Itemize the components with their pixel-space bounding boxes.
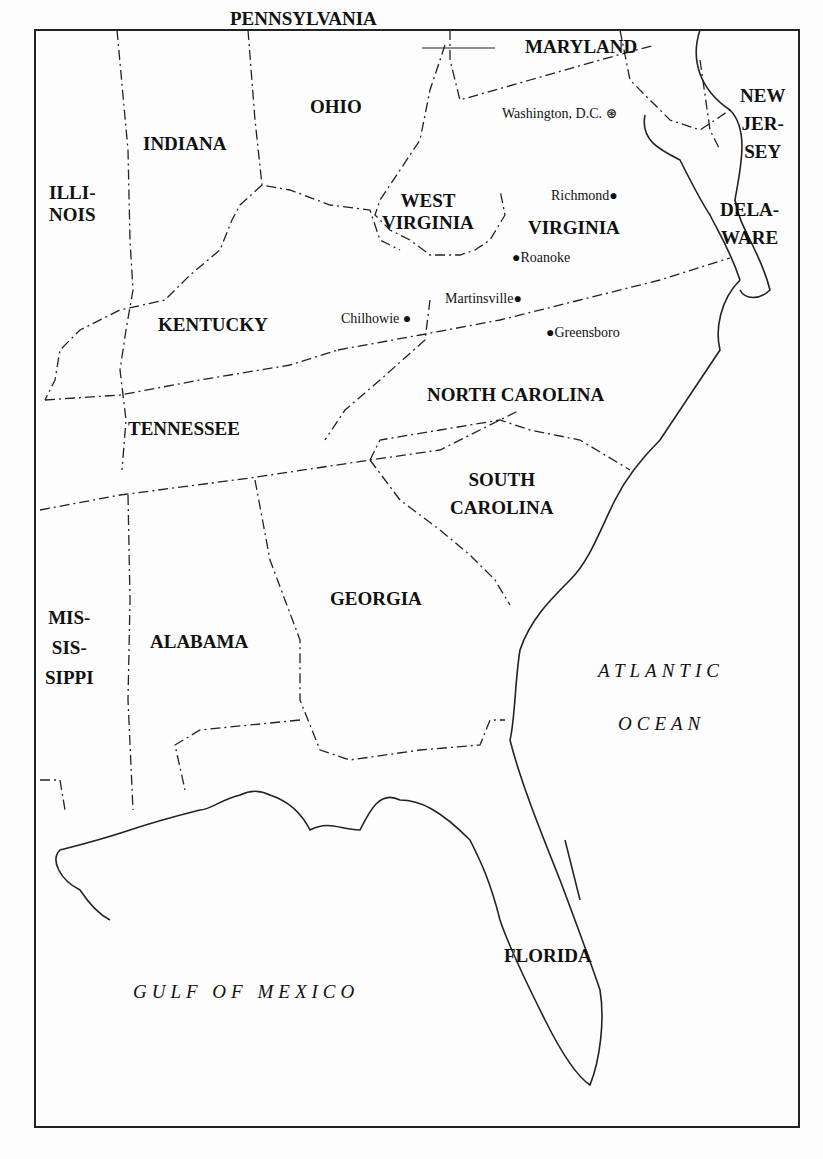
city-washington: Washington, D.C. ⊛: [502, 105, 617, 122]
label-ocean: OCEAN: [618, 713, 705, 735]
label-south-carolina: SOUTHCAROLINA: [450, 466, 553, 522]
label-pennsylvania: PENNSYLVANIA: [230, 8, 377, 30]
label-ohio: OHIO: [310, 96, 362, 118]
label-mississippi: MIS-SIS-SIPPI: [45, 603, 94, 693]
label-new-jersey: NEWJER-SEY: [740, 82, 785, 166]
label-georgia: GEORGIA: [330, 588, 422, 610]
map-lines: [0, 0, 823, 1159]
label-north-carolina: NORTH CAROLINA: [427, 384, 604, 406]
label-tennessee: TENNESSEE: [128, 418, 240, 440]
label-indiana: INDIANA: [143, 133, 226, 155]
label-illinois: ILLI-NOIS: [49, 182, 95, 226]
label-maryland: MARYLAND: [525, 36, 637, 58]
city-greensboro: ●Greensboro: [546, 325, 620, 341]
label-kentucky: KENTUCKY: [158, 314, 268, 336]
label-delaware: DELA-WARE: [720, 196, 779, 252]
label-west-virginia: WESTVIRGINIA: [382, 190, 474, 234]
label-alabama: ALABAMA: [150, 631, 248, 653]
city-roanoke: ●Roanoke: [512, 250, 570, 266]
coastline: [56, 30, 770, 1085]
label-gulf-of-mexico: GULF OF MEXICO: [133, 981, 359, 1003]
label-florida: FLORIDA: [504, 945, 592, 967]
city-richmond: Richmond●: [551, 188, 618, 204]
label-atlantic: ATLANTIC: [598, 660, 724, 682]
city-chilhowie: Chilhowie ●: [341, 311, 411, 327]
city-martinsville: Martinsville●: [445, 291, 522, 307]
label-virginia: VIRGINIA: [528, 217, 620, 239]
